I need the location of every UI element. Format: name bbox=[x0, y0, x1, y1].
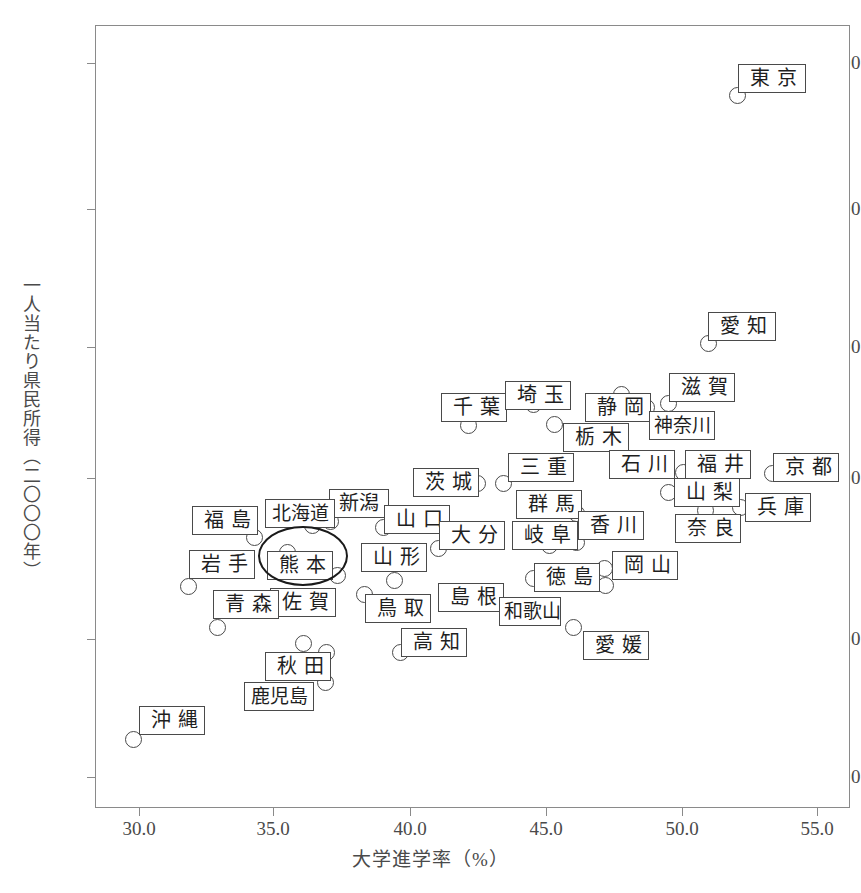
prefecture-label[interactable]: 東京 bbox=[738, 64, 806, 93]
data-point-marker[interactable] bbox=[386, 572, 403, 589]
prefecture-label[interactable]: 青森 bbox=[213, 590, 279, 619]
x-tick-mark bbox=[682, 808, 683, 816]
x-tick-mark bbox=[139, 808, 140, 816]
prefecture-label[interactable]: 熊本 bbox=[267, 551, 333, 580]
prefecture-label[interactable]: 沖縄 bbox=[139, 706, 205, 735]
prefecture-label[interactable]: 奈良 bbox=[675, 514, 741, 543]
data-point-marker[interactable] bbox=[546, 416, 563, 433]
y-axis-title: 一人当たり県民所得（二〇〇〇年） bbox=[8, 276, 40, 580]
prefecture-label[interactable]: 新潟 bbox=[329, 489, 389, 518]
prefecture-label[interactable]: 島根 bbox=[438, 583, 504, 612]
prefecture-label[interactable]: 茨城 bbox=[413, 468, 479, 497]
prefecture-label[interactable]: 京都 bbox=[773, 453, 839, 482]
prefecture-label[interactable]: 福井 bbox=[685, 450, 751, 479]
data-point-marker[interactable] bbox=[565, 619, 582, 636]
prefecture-label[interactable]: 徳島 bbox=[534, 563, 600, 592]
data-point-marker[interactable] bbox=[209, 619, 226, 636]
y-tick-mark bbox=[87, 639, 95, 640]
x-tick-label: 45.0 bbox=[511, 818, 581, 840]
x-tick-mark bbox=[817, 808, 818, 816]
prefecture-label[interactable]: 兵庫 bbox=[745, 493, 811, 522]
prefecture-label[interactable]: 岩手 bbox=[189, 550, 255, 579]
prefecture-label[interactable]: 栃木 bbox=[563, 423, 629, 452]
prefecture-label[interactable]: 大分 bbox=[439, 521, 505, 550]
data-point-marker[interactable] bbox=[295, 635, 312, 652]
prefecture-label[interactable]: 岐阜 bbox=[512, 521, 578, 550]
x-axis-title: 大学進学率（%） bbox=[0, 849, 861, 871]
x-tick-label: 35.0 bbox=[238, 818, 308, 840]
prefecture-label[interactable]: 鳥取 bbox=[365, 594, 431, 623]
x-tick-mark bbox=[273, 808, 274, 816]
chart-page: 一人当たり県民所得（二〇〇〇年） 45004000350030002500200… bbox=[0, 0, 861, 893]
prefecture-label[interactable]: 福島 bbox=[192, 506, 258, 535]
prefecture-label[interactable]: 千葉 bbox=[441, 393, 507, 422]
prefecture-label[interactable]: 石川 bbox=[609, 450, 675, 479]
prefecture-label[interactable]: 静岡 bbox=[585, 393, 651, 422]
prefecture-label[interactable]: 和歌山 bbox=[499, 597, 561, 626]
prefecture-label[interactable]: 三重 bbox=[508, 453, 574, 482]
x-tick-mark bbox=[546, 808, 547, 816]
prefecture-label[interactable]: 北海道 bbox=[265, 499, 335, 528]
prefecture-label[interactable]: 山形 bbox=[361, 543, 427, 572]
prefecture-label[interactable]: 愛知 bbox=[708, 312, 776, 341]
prefecture-label[interactable]: 神奈川 bbox=[649, 411, 715, 440]
prefecture-label[interactable]: 群馬 bbox=[516, 490, 582, 519]
prefecture-label[interactable]: 佐賀 bbox=[270, 588, 336, 617]
prefecture-label[interactable]: 埼玉 bbox=[505, 381, 571, 410]
prefecture-label[interactable]: 鹿児島 bbox=[244, 682, 314, 711]
prefecture-label[interactable]: 山梨 bbox=[674, 478, 740, 507]
y-tick-mark bbox=[87, 63, 95, 64]
prefecture-label[interactable]: 秋田 bbox=[265, 652, 331, 681]
data-point-marker[interactable] bbox=[180, 578, 197, 595]
prefecture-label[interactable]: 滋賀 bbox=[669, 373, 735, 402]
y-tick-mark bbox=[87, 347, 95, 348]
x-tick-label: 55.0 bbox=[782, 818, 852, 840]
x-tick-label: 50.0 bbox=[647, 818, 717, 840]
prefecture-label[interactable]: 香川 bbox=[578, 511, 644, 540]
y-tick-mark bbox=[87, 478, 95, 479]
prefecture-label[interactable]: 愛媛 bbox=[583, 631, 649, 660]
prefecture-label[interactable]: 高知 bbox=[401, 628, 467, 657]
y-tick-mark bbox=[87, 777, 95, 778]
x-tick-mark bbox=[410, 808, 411, 816]
y-tick-mark bbox=[87, 209, 95, 210]
prefecture-label[interactable]: 岡山 bbox=[612, 551, 678, 580]
x-tick-label: 30.0 bbox=[104, 818, 174, 840]
x-tick-label: 40.0 bbox=[375, 818, 445, 840]
